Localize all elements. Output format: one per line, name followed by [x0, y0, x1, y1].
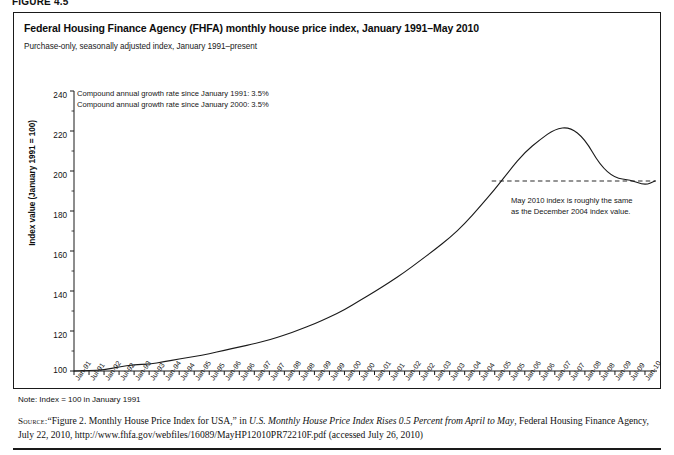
- figure-number-label: FIGURE 4.5: [12, 0, 68, 7]
- source-label: Source:: [18, 416, 47, 426]
- annotation-growth-line-2: Compound annual growth rate since Januar…: [77, 100, 269, 109]
- source-citation: Source:“Figure 2. Monthly House Price In…: [18, 414, 658, 441]
- annotation-growth-line-1: Compound annual growth rate since Januar…: [77, 89, 269, 98]
- annotation-dashed-line-1: May 2010 index is roughly the same: [511, 196, 633, 205]
- note-text: Note: Index = 100 in January 1991: [18, 395, 141, 404]
- annotation-dashed-note: May 2010 index is roughly the same as th…: [511, 196, 633, 217]
- bottom-rule: [13, 448, 661, 450]
- source-part-1: “Figure 2. Monthly House Price Index for…: [47, 415, 249, 426]
- figure-page: FIGURE 4.5 Federal Housing Finance Agenc…: [0, 0, 674, 455]
- figure-border-box: Federal Housing Finance Agency (FHFA) mo…: [13, 12, 661, 389]
- source-italic-title: U.S. Monthly House Price Index Rises 0.5…: [249, 415, 514, 426]
- annotation-dashed-line-2: as the December 2004 index value.: [511, 207, 630, 216]
- plot-area: Index value (January 1991 = 100) 240 220…: [14, 13, 662, 390]
- annotation-growth-rates: Compound annual growth rate since Januar…: [77, 89, 269, 110]
- x-tick-label: Jan-10: [643, 359, 663, 382]
